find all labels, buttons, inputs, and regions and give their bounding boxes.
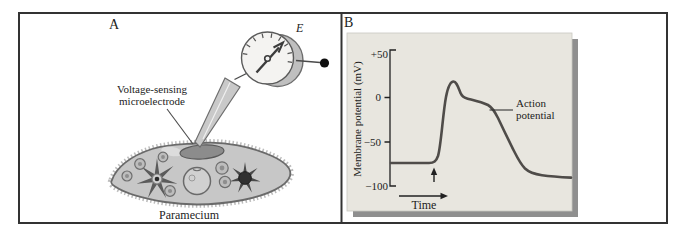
meter-label: E: [295, 21, 304, 35]
panel-a: A: [109, 17, 329, 222]
annotation-line2: potential: [516, 109, 555, 121]
electrode-label-line2: microelectrode: [119, 95, 185, 107]
annotation-line1: Action: [516, 97, 546, 109]
figure-page: A: [0, 0, 684, 236]
panel-a-label: A: [109, 17, 120, 32]
panel-b-label: B: [344, 15, 353, 30]
paramecium-illustration: [111, 143, 290, 205]
y-axis-title: Membrane potential (mV): [351, 61, 364, 177]
electrode-label-leader: [167, 109, 193, 144]
terminal-dot: [320, 58, 329, 67]
ytick-minus100: −100: [365, 180, 388, 192]
meter-pivot: [265, 56, 271, 62]
electrode-label-line1: Voltage-sensing: [117, 83, 188, 95]
ytick-0: 0: [376, 91, 382, 103]
two-panel-figure: A: [0, 0, 684, 236]
ytick-plus50: +50: [371, 48, 389, 60]
panel-b: B +50 0 −50 −100 Membrane potential (mV)…: [344, 15, 578, 217]
organism-label: Paramecium: [159, 208, 220, 222]
ytick-minus50: −50: [364, 136, 382, 148]
microelectrode-icon: [195, 78, 240, 147]
voltmeter-icon: [242, 32, 304, 87]
central-vacuole: [184, 168, 211, 195]
x-axis-title: Time: [412, 198, 437, 212]
